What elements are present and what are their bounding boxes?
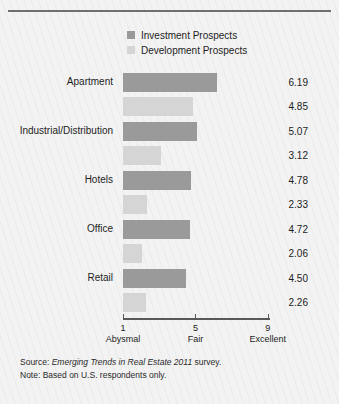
bar-investment	[123, 269, 186, 288]
bar-value-label: 2.33	[268, 199, 308, 210]
bar-development	[123, 244, 142, 263]
bar-value-label: 4.50	[268, 273, 308, 284]
bar-development	[123, 195, 147, 214]
axis-tick-number: 5	[188, 323, 204, 334]
legend-item-investment: Investment Prospects	[127, 28, 247, 42]
legend-label-investment: Investment Prospects	[141, 30, 237, 41]
category-label: Industrial/Distribution	[1, 125, 113, 136]
bar-fill	[123, 122, 197, 141]
axis-tick-word: Abysmal	[106, 334, 141, 345]
bar-investment	[123, 122, 197, 141]
bar-investment	[123, 220, 190, 239]
chart-plot-area: Apartment6.194.85Industrial/Distribution…	[8, 68, 331, 316]
chart-x-axis: 1Abysmal5Fair9Excellent	[8, 318, 331, 348]
axis-tick	[268, 314, 269, 320]
bar-fill	[123, 171, 191, 190]
bar-value-label: 2.26	[268, 297, 308, 308]
bar-group: Retail4.502.26	[8, 264, 331, 313]
source-suffix: survey.	[192, 357, 221, 367]
bar-investment	[123, 73, 217, 92]
bar-fill	[123, 73, 217, 92]
axis-line	[123, 318, 270, 320]
bar-fill	[123, 269, 186, 288]
note-line: Note: Based on U.S. respondents only.	[20, 369, 320, 382]
axis-tick-label: 5Fair	[188, 323, 204, 345]
category-label: Apartment	[1, 76, 113, 87]
axis-tick-label: 9Excellent	[250, 323, 287, 345]
bar-value-label: 4.72	[268, 224, 308, 235]
bar-value-label: 3.12	[268, 150, 308, 161]
category-label: Retail	[1, 272, 113, 283]
bar-fill	[123, 293, 146, 312]
axis-tick-number: 1	[106, 323, 141, 334]
bar-value-label: 2.06	[268, 248, 308, 259]
bar-group: Industrial/Distribution5.073.12	[8, 117, 331, 166]
bar-development	[123, 97, 193, 116]
chart-panel: Investment Prospects Development Prospec…	[8, 10, 331, 397]
bar-development	[123, 293, 146, 312]
bar-value-label: 4.85	[268, 101, 308, 112]
legend-swatch-development-icon	[127, 46, 135, 54]
axis-tick-number: 9	[250, 323, 287, 334]
category-label: Office	[1, 223, 113, 234]
legend-swatch-investment-icon	[127, 31, 135, 39]
source-line: Source: Emerging Trends in Real Estate 2…	[20, 356, 320, 369]
bar-group: Office4.722.06	[8, 215, 331, 264]
category-label: Hotels	[1, 174, 113, 185]
bar-fill	[123, 146, 161, 165]
axis-tick-word: Excellent	[250, 334, 287, 345]
source-prefix: Source:	[20, 357, 52, 367]
bar-value-label: 5.07	[268, 126, 308, 137]
bar-fill	[123, 195, 147, 214]
axis-tick-word: Fair	[188, 334, 204, 345]
legend-label-development: Development Prospects	[141, 45, 247, 56]
bar-fill	[123, 97, 193, 116]
axis-tick	[195, 314, 196, 320]
bar-investment	[123, 171, 191, 190]
legend-item-development: Development Prospects	[127, 43, 247, 57]
axis-tick-label: 1Abysmal	[106, 323, 141, 345]
bar-group: Hotels4.782.33	[8, 166, 331, 215]
bar-value-label: 4.78	[268, 175, 308, 186]
bar-value-label: 6.19	[268, 77, 308, 88]
bar-group: Apartment6.194.85	[8, 68, 331, 117]
bar-fill	[123, 220, 190, 239]
bar-fill	[123, 244, 142, 263]
axis-tick	[123, 314, 124, 320]
bar-development	[123, 146, 161, 165]
chart-figure: Investment Prospects Development Prospec…	[0, 0, 339, 404]
chart-footer: Source: Emerging Trends in Real Estate 2…	[20, 356, 320, 382]
chart-legend: Investment Prospects Development Prospec…	[127, 28, 247, 58]
source-title: Emerging Trends in Real Estate 2011	[52, 357, 192, 367]
